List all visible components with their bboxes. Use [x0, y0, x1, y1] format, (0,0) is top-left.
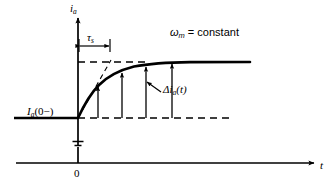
- figure-container: ia τs ωm = constant Ia(0−) Δia(t) 0 t: [0, 0, 334, 190]
- current-response-plot: [0, 0, 334, 190]
- y-axis-label: ia: [70, 3, 77, 14]
- tau-dimension-bracket: [79, 39, 110, 52]
- initial-current-label: Ia(0−): [27, 106, 53, 117]
- origin-label: 0: [74, 168, 80, 179]
- x-axis-label: t: [320, 160, 323, 171]
- delta-current-arrows: [98, 64, 172, 118]
- delta-label-leader: [147, 82, 161, 92]
- delta-current-label: Δia(t): [163, 84, 187, 95]
- speed-condition-label: ωm = constant: [170, 27, 239, 38]
- time-constant-label: τs: [87, 32, 94, 43]
